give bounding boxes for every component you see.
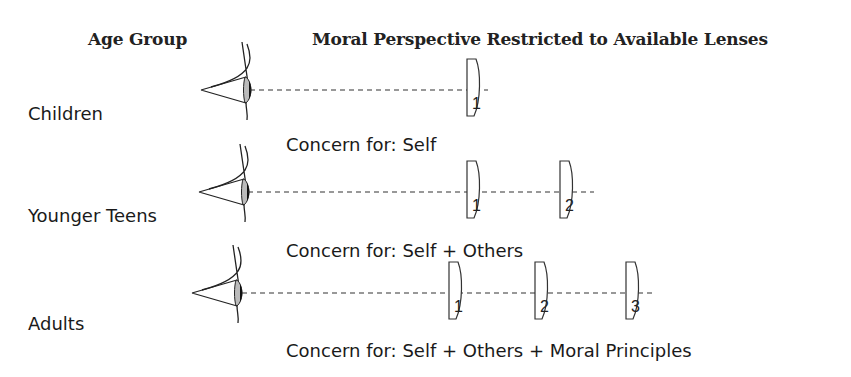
row-younger-teens: 1 2: [199, 144, 594, 222]
lens-number: 1: [472, 197, 481, 214]
lens-icon: 2: [535, 262, 549, 319]
eye-icon: [201, 42, 251, 120]
lens-icon: 3: [626, 262, 640, 319]
lens-icon: 2: [560, 161, 574, 218]
eye-icon: [199, 144, 249, 222]
lens-icon: 1: [467, 59, 481, 116]
eye-icon: [192, 245, 242, 323]
lens-icon: 1: [449, 262, 463, 319]
lens-diagram: 1 1 2 1 2 3: [0, 0, 851, 377]
row-children: 1: [201, 42, 488, 120]
lens-number: 1: [472, 95, 481, 112]
lens-icon: 1: [467, 161, 481, 218]
lens-number: 3: [631, 298, 640, 315]
lens-number: 2: [565, 197, 574, 214]
row-adults: 1 2 3: [192, 245, 654, 323]
lens-number: 1: [454, 298, 463, 315]
lens-number: 2: [540, 298, 549, 315]
